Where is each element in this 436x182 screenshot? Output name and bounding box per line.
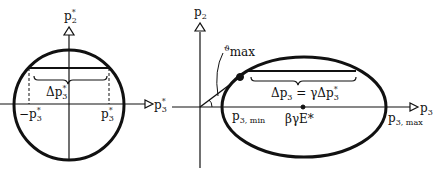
right-y-arrow-icon: [195, 23, 205, 31]
center-point: [301, 105, 305, 109]
left-y-arrow-icon: [64, 27, 74, 35]
angle-pointer: [217, 53, 223, 96]
left-panel: [0, 27, 180, 160]
pos-p3-tick-label: p3*: [101, 106, 114, 123]
right-brace: [251, 77, 356, 85]
left-brace: [34, 76, 107, 84]
left-x-arrow-icon: [145, 100, 153, 108]
right-x-arrow-icon: [410, 103, 418, 111]
theta-max-label: ϑmax: [224, 44, 255, 59]
beta-gamma-e-label: βγE*: [285, 112, 314, 126]
left-y-axis-label: p2*: [64, 8, 77, 25]
delta-p3-label: Δp3 = γΔp3*: [271, 85, 339, 102]
right-x-axis-label: p3: [420, 101, 433, 117]
diagram-canvas: p2* p3* Δp3* −p3* p3* p2 p3 ϑmax Δp3 = γ…: [0, 0, 436, 182]
angle-arc: [209, 100, 212, 107]
tangent-point: [237, 74, 244, 81]
right-y-axis-label: p2: [194, 5, 207, 21]
left-brace-label: Δp3*: [46, 84, 67, 101]
p3-min-label: p3, min: [232, 109, 265, 125]
p3-max-label: p3, max: [388, 111, 423, 127]
neg-p3-tick-label: −p3*: [19, 106, 42, 123]
left-x-axis-label: p3*: [154, 97, 167, 114]
